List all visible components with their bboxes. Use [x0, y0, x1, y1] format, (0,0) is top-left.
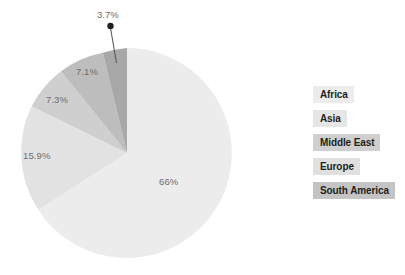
pie-slices	[21, 48, 232, 258]
legend-item-label: Africa	[320, 89, 348, 100]
chart-legend: Africa Asia Middle East Europe South Ame…	[313, 86, 401, 206]
legend-item-label: Europe	[320, 161, 354, 172]
legend-item-label: Asia	[320, 113, 341, 124]
legend-item-europe[interactable]: Europe	[313, 158, 360, 175]
legend-item-africa[interactable]: Africa	[313, 86, 354, 103]
slice-value-label-middle-east: 7.3%	[46, 94, 68, 105]
legend-item-label: South America	[320, 185, 389, 196]
slice-value-label-africa: 3.7%	[97, 9, 119, 20]
legend-item-south-america[interactable]: South America	[313, 182, 395, 199]
legend-item-asia[interactable]: Asia	[313, 110, 347, 127]
pie-chart-figure: 66% 15.9% 7.3% 7.1% 3.7% Africa Asia Mid…	[0, 0, 405, 275]
legend-item-label: Middle East	[320, 137, 374, 148]
slice-value-label-asia: 7.1%	[76, 66, 98, 77]
callout-dot	[107, 23, 113, 29]
legend-item-middle-east[interactable]: Middle East	[313, 134, 380, 151]
slice-value-label-south-america: 66%	[159, 176, 178, 187]
slice-value-label-europe: 15.9%	[23, 150, 50, 161]
